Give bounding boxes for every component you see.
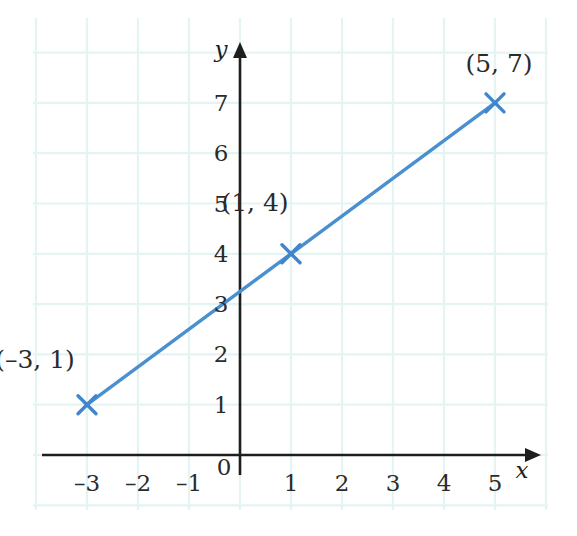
x-tick-label: 4 (437, 472, 452, 495)
y-tick-label: 4 (214, 242, 229, 265)
x-tick-label: –3 (74, 472, 100, 495)
graph-figure: –3–2–1012345 1234567 (–3, 1)(1, 4)(5, 7)… (0, 0, 577, 536)
coordinate-plane-svg (0, 0, 577, 536)
grid-lines (33, 18, 548, 510)
y-tick-label: 2 (214, 343, 229, 366)
x-tick-label: 3 (386, 472, 401, 495)
x-tick-label: –2 (125, 472, 151, 495)
y-tick-label: 3 (214, 293, 229, 316)
x-axis-label: x (516, 459, 529, 482)
x-tick-label: –1 (176, 472, 202, 495)
y-tick-label: 6 (214, 142, 229, 165)
x-tick-label: 2 (335, 472, 350, 495)
y-axis-arrowhead (233, 42, 247, 58)
x-tick-label: 1 (284, 472, 299, 495)
point-label: (1, 4) (221, 189, 288, 214)
y-tick-label: 7 (214, 91, 229, 114)
x-tick-label: 5 (488, 472, 503, 495)
x-tick-label: 0 (217, 456, 232, 479)
y-axis-label: y (215, 38, 228, 61)
y-tick-label: 1 (214, 393, 229, 416)
point-label: (5, 7) (465, 50, 532, 75)
point-label: (–3, 1) (0, 346, 75, 371)
